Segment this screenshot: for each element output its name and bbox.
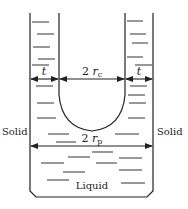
thickness-left-label: t bbox=[42, 65, 47, 78]
outer-container bbox=[30, 13, 153, 197]
liquid-label: Liquid bbox=[76, 180, 109, 191]
thickness-right-label: t bbox=[137, 65, 142, 78]
cell-diameter-label: 2 rc bbox=[82, 65, 103, 79]
left-solid-label: Solid bbox=[2, 126, 28, 137]
pore-diameter-label: 2 rp bbox=[82, 132, 103, 146]
right-solid-label: Solid bbox=[157, 126, 183, 137]
capillary-cell-diagram: t t 2 rc 2 rp Solid Solid Liquid bbox=[0, 0, 188, 209]
